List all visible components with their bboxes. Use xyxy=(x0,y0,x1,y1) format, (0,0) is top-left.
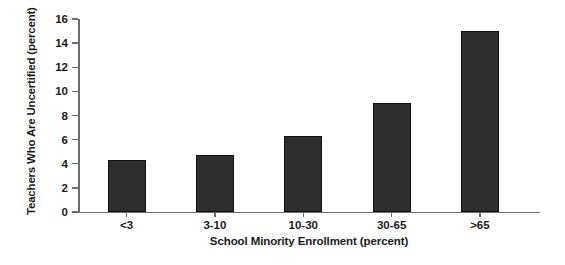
bar xyxy=(461,31,499,212)
plot-area xyxy=(78,19,540,212)
x-tick-mark xyxy=(391,212,392,217)
y-tick-label-wrap: 8 xyxy=(44,110,68,122)
y-tick-label-wrap: 4 xyxy=(44,158,68,170)
bar xyxy=(196,155,234,212)
x-tick-label: 3-10 xyxy=(175,218,255,232)
y-tick-label: 0 xyxy=(46,206,68,218)
bar-chart: Teachers Who Are Uncertified (percent) 0… xyxy=(0,0,565,265)
y-tick-label-wrap: 12 xyxy=(44,61,68,73)
y-tick-label-wrap: 2 xyxy=(44,182,68,194)
x-tick-mark xyxy=(126,212,127,217)
bar xyxy=(108,160,146,212)
y-axis-title: Teachers Who Are Uncertified (percent) xyxy=(22,15,40,215)
y-tick-label: 2 xyxy=(46,182,68,194)
x-axis-title: School Minority Enrollment (percent) xyxy=(78,234,540,248)
x-tick-label: 10-30 xyxy=(263,218,343,232)
x-tick-label: <3 xyxy=(87,218,167,232)
y-tick-label: 16 xyxy=(46,13,68,25)
x-tick-mark xyxy=(214,212,215,217)
bar xyxy=(373,103,411,212)
y-tick-label: 10 xyxy=(46,85,68,97)
y-tick-label: 4 xyxy=(46,158,68,170)
x-tick-mark xyxy=(303,212,304,217)
y-tick-label: 14 xyxy=(46,37,68,49)
y-tick-label: 12 xyxy=(46,61,68,73)
y-tick-label: 8 xyxy=(46,110,68,122)
y-tick-label-wrap: 16 xyxy=(44,13,68,25)
x-tick-mark xyxy=(479,212,480,217)
y-tick-label-wrap: 14 xyxy=(44,37,68,49)
x-tick-label: >65 xyxy=(440,218,520,232)
y-tick-label-wrap: 0 xyxy=(44,206,68,218)
bar xyxy=(284,136,322,212)
y-tick-label: 6 xyxy=(46,134,68,146)
x-tick-label: 30-65 xyxy=(352,218,432,232)
y-tick-label-wrap: 10 xyxy=(44,85,68,97)
y-tick-label-wrap: 6 xyxy=(44,134,68,146)
